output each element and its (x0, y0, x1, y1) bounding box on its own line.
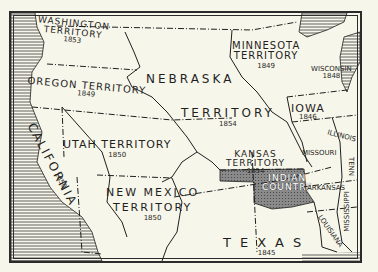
new-mexico-name-2: TERRITORY (106, 202, 199, 213)
minnesota-name-2: TERRITORY (232, 51, 300, 61)
texas-year: 1845 (223, 250, 310, 257)
label-utah: UTAH TERRITORY 1850 (63, 139, 171, 159)
lake-michigan (340, 32, 360, 92)
nebraska-year: 1854 (181, 121, 275, 128)
map-outline (11, 13, 360, 261)
label-iowa: IOWA 1846 (291, 103, 325, 121)
iowa-year: 1846 (291, 114, 325, 121)
indian-country-name-2: COUNTRY (262, 183, 312, 192)
nebraska-name-2: TERRITORY (181, 107, 275, 119)
utah-name: UTAH TERRITORY (63, 139, 171, 150)
label-new-mexico: NEW MEXICO TERRITORY 1850 (106, 187, 199, 222)
wisconsin-year: 1848 (311, 73, 352, 80)
label-wisconsin: WISCONSIN 1848 (311, 66, 352, 80)
label-tennessee: TENN (347, 157, 354, 176)
new-mexico-year: 1850 (106, 215, 199, 222)
map-frame: WASHINGTON TERRITORY 1853 OREGON TERRITO… (9, 11, 362, 263)
label-nebraska-territory: TERRITORY 1854 (181, 107, 275, 128)
label-indian-country: INDIAN COUNTRY (262, 174, 312, 192)
label-nebraska: NEBRASKA (146, 73, 234, 85)
lake-superior (299, 13, 347, 37)
label-mississippi: MISSISSIPPI (344, 191, 351, 232)
label-texas: TEXAS 1845 (223, 236, 310, 257)
texas-name: TEXAS (223, 236, 310, 249)
utah-year: 1850 (63, 152, 171, 159)
label-minnesota: MINNESOTA TERRITORY 1849 (232, 41, 300, 70)
label-arkansas: ARKANSAS (307, 185, 345, 192)
label-kansas: KANSAS TERRITORY 1854 (226, 150, 285, 175)
new-mexico-name: NEW MEXICO (106, 187, 199, 198)
gulf-of-mexico (302, 252, 360, 261)
label-missouri: MISSOURI (302, 150, 337, 157)
minnesota-year: 1849 (232, 63, 300, 70)
